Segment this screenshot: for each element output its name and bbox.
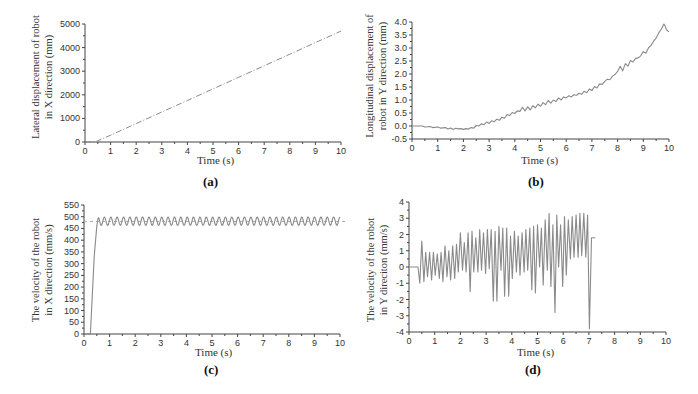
y-tick-label: 1.0 bbox=[394, 95, 407, 105]
y-tick-label: 1.5 bbox=[394, 82, 407, 92]
x-tick-label: 7 bbox=[589, 143, 594, 153]
x-tick-label: 2 bbox=[461, 143, 466, 153]
y-tick-label: 450 bbox=[64, 223, 79, 233]
x-tick-label: 3 bbox=[158, 338, 163, 348]
chart-b-ylabel: Longitudinal displacement of robot in Y … bbox=[363, 0, 389, 156]
chart-b-ylabel-line2: robot in Y direction (mm) bbox=[376, 0, 389, 156]
y-tick-label: 0.5 bbox=[394, 108, 407, 118]
x-tick-label: 8 bbox=[286, 338, 291, 348]
x-tick-label: 2 bbox=[134, 146, 139, 156]
data-series-line bbox=[412, 24, 669, 130]
y-tick-label: 3.5 bbox=[394, 30, 407, 40]
x-tick-label: 0 bbox=[81, 338, 86, 348]
y-tick-label: 2.5 bbox=[394, 56, 407, 66]
data-series-line bbox=[84, 217, 340, 334]
x-tick-label: 1 bbox=[107, 338, 112, 348]
y-tick-label: 0.0 bbox=[394, 121, 407, 131]
y-tick-label: 1 bbox=[399, 246, 404, 256]
chart-d-ylabel-line1: The velocity of the robot bbox=[364, 190, 377, 350]
x-tick-label: 2 bbox=[458, 336, 463, 346]
x-tick-label: 8 bbox=[287, 146, 292, 156]
x-tick-label: 6 bbox=[235, 338, 240, 348]
x-tick-label: 10 bbox=[661, 336, 671, 346]
y-tick-label: 250 bbox=[64, 270, 79, 280]
y-tick-label: 500 bbox=[64, 212, 79, 222]
x-tick-label: 10 bbox=[664, 143, 674, 153]
y-tick-label: 300 bbox=[64, 259, 79, 269]
chart-a-ylabel-line2: in X direction (mm) bbox=[42, 0, 55, 157]
chart-d-xlabel: Time (s) bbox=[517, 346, 554, 358]
chart-b-plot: 012345678910-0.50.00.51.01.52.02.53.03.5… bbox=[349, 0, 698, 197]
chart-c-ylabel: The velocity of the robot in X direction… bbox=[29, 190, 55, 350]
x-tick-label: 7 bbox=[586, 336, 591, 346]
x-tick-label: 2 bbox=[133, 338, 138, 348]
y-tick-label: 3000 bbox=[60, 66, 80, 76]
x-tick-label: 1 bbox=[108, 146, 113, 156]
y-tick-label: -4 bbox=[396, 327, 404, 337]
y-tick-label: 2 bbox=[399, 230, 404, 240]
y-tick-label: 150 bbox=[64, 294, 79, 304]
y-tick-label: 0 bbox=[399, 262, 404, 272]
chart-a-xlabel: Time (s) bbox=[197, 154, 234, 166]
chart-b-xlabel: Time (s) bbox=[521, 154, 558, 166]
y-tick-label: -0.5 bbox=[391, 134, 407, 144]
chart-b-ylabel-line1: Longitudinal displacement of bbox=[363, 0, 376, 156]
data-series-line bbox=[409, 213, 595, 328]
x-tick-label: 6 bbox=[236, 146, 241, 156]
data-series-line bbox=[85, 31, 341, 142]
y-tick-label: 4000 bbox=[60, 43, 80, 53]
chart-a-caption: (a) bbox=[203, 174, 218, 190]
x-tick-label: 4 bbox=[184, 338, 189, 348]
x-tick-label: 0 bbox=[82, 146, 87, 156]
panel-d: 012345678910-4-3-2-101234 The velocity o… bbox=[349, 197, 698, 394]
chart-c-caption: (c) bbox=[204, 362, 218, 378]
x-tick-label: 7 bbox=[262, 146, 267, 156]
y-tick-label: 0 bbox=[75, 137, 80, 147]
x-tick-label: 8 bbox=[612, 336, 617, 346]
y-tick-label: 350 bbox=[64, 247, 79, 257]
x-tick-label: 7 bbox=[261, 338, 266, 348]
x-tick-label: 9 bbox=[312, 338, 317, 348]
y-tick-label: 2000 bbox=[60, 90, 80, 100]
panel-c: 0123456789100501001502002503003504004505… bbox=[0, 197, 349, 394]
chart-d-plot: 012345678910-4-3-2-101234 bbox=[349, 197, 698, 394]
y-tick-label: -2 bbox=[396, 295, 404, 305]
x-tick-label: 6 bbox=[561, 336, 566, 346]
y-tick-label: 3 bbox=[399, 213, 404, 223]
x-tick-label: 5 bbox=[538, 143, 543, 153]
x-tick-label: 10 bbox=[335, 338, 345, 348]
chart-d-caption: (d) bbox=[525, 362, 541, 378]
x-tick-label: 8 bbox=[615, 143, 620, 153]
x-tick-label: 9 bbox=[638, 336, 643, 346]
panel-a: 012345678910010002000300040005000 Latera… bbox=[0, 0, 349, 197]
panel-b: 012345678910-0.50.00.51.01.52.02.53.03.5… bbox=[349, 0, 698, 197]
chart-c-ylabel-line1: The velocity of the robot bbox=[29, 190, 42, 350]
y-tick-label: 3.0 bbox=[394, 43, 407, 53]
chart-a-ylabel-line1: Lateral displacement of robot bbox=[29, 0, 42, 157]
y-tick-label: 4 bbox=[399, 197, 404, 207]
y-tick-label: -3 bbox=[396, 311, 404, 321]
y-tick-label: 1000 bbox=[60, 113, 80, 123]
x-tick-label: 3 bbox=[484, 336, 489, 346]
x-tick-label: 3 bbox=[487, 143, 492, 153]
x-tick-label: 4 bbox=[512, 143, 517, 153]
x-tick-label: 0 bbox=[406, 336, 411, 346]
chart-d-ylabel: The velocity of the robot in Y direciton… bbox=[364, 190, 390, 350]
y-tick-label: 0 bbox=[74, 329, 79, 339]
y-tick-label: 550 bbox=[64, 200, 79, 210]
y-tick-label: -1 bbox=[396, 278, 404, 288]
y-tick-label: 4.0 bbox=[394, 17, 407, 27]
x-tick-label: 10 bbox=[336, 146, 346, 156]
y-tick-label: 100 bbox=[64, 306, 79, 316]
y-tick-label: 400 bbox=[64, 235, 79, 245]
x-tick-label: 4 bbox=[509, 336, 514, 346]
x-tick-label: 9 bbox=[313, 146, 318, 156]
chart-b-caption: (b) bbox=[528, 174, 544, 190]
y-tick-label: 2.0 bbox=[394, 69, 407, 79]
chart-c-xlabel: Time (s) bbox=[195, 346, 232, 358]
x-tick-label: 1 bbox=[432, 336, 437, 346]
y-tick-label: 50 bbox=[69, 317, 79, 327]
x-tick-label: 9 bbox=[641, 143, 646, 153]
y-tick-label: 5000 bbox=[60, 19, 80, 29]
chart-d-ylabel-line2: in Y direciton (mm/s) bbox=[377, 190, 390, 350]
